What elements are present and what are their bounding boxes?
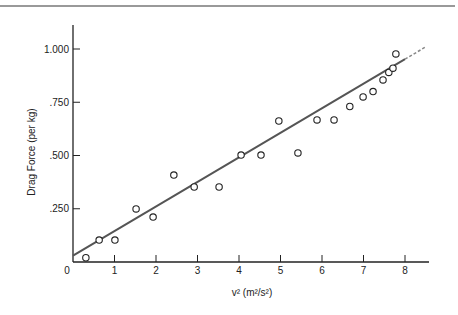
data-point [331, 117, 337, 123]
data-point [238, 152, 244, 158]
fit-line-extension [405, 47, 426, 59]
x-tick-label: 5 [278, 265, 284, 276]
x-tick-label: 1 [112, 265, 118, 276]
x-tick-label: 4 [236, 265, 242, 276]
y-axis-label: Drag Force (per kg) [26, 108, 37, 195]
data-points [83, 51, 399, 261]
data-point [96, 237, 102, 243]
y-tick-label: 1.000 [44, 44, 69, 55]
x-tick-label: 7 [361, 265, 367, 276]
axes [73, 25, 429, 262]
x-tick-label: 8 [402, 265, 408, 276]
x-tick-label: 3 [195, 265, 201, 276]
data-point [83, 255, 89, 261]
x-axis-label: v² (m²/s²) [232, 287, 273, 298]
data-point [380, 77, 386, 83]
data-point [347, 103, 353, 109]
data-point [314, 117, 320, 123]
fit-line [73, 47, 426, 256]
y-tick-label: .500 [50, 150, 70, 161]
data-point [216, 184, 222, 190]
x-tick-label: 6 [319, 265, 325, 276]
data-point [171, 172, 177, 178]
data-point [276, 118, 282, 124]
drag-force-chart: 012345678.250.500.7501.000 v² (m²/s²) Dr… [0, 0, 458, 315]
data-point [295, 150, 301, 156]
data-point [393, 51, 399, 57]
data-point [370, 88, 376, 94]
data-point [133, 206, 139, 212]
x-tick-label: 2 [153, 265, 159, 276]
y-tick-label: .750 [50, 97, 70, 108]
x-tick-label: 0 [64, 265, 70, 276]
data-point [191, 184, 197, 190]
y-tick-label: .250 [50, 203, 70, 214]
data-point [258, 152, 264, 158]
data-point [150, 214, 156, 220]
data-point [360, 94, 366, 100]
data-point [390, 65, 396, 71]
data-point [112, 237, 118, 243]
